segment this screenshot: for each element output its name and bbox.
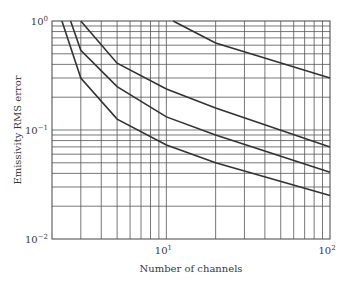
grid-lines <box>52 21 330 239</box>
curve-1-line <box>62 21 330 196</box>
y-axis-label: Emissivity RMS error <box>12 75 23 184</box>
y-tick-label: 10−2 <box>25 233 48 245</box>
y-tick-label: 100 <box>31 15 48 27</box>
curve-3-line <box>81 21 330 147</box>
curve-4-line <box>173 21 330 78</box>
x-axis-label: Number of channels <box>140 263 243 274</box>
curve-2-line <box>71 21 330 172</box>
x-tick-label: 102 <box>318 244 335 256</box>
chart: 101102 10010−110−2 Number of channels Em… <box>0 0 351 282</box>
x-tick-labels: 101102 <box>155 244 336 256</box>
x-tick-label: 101 <box>155 244 172 256</box>
y-tick-label: 10−1 <box>25 124 48 136</box>
y-tick-labels: 10010−110−2 <box>25 15 48 245</box>
data-curves <box>62 21 330 196</box>
